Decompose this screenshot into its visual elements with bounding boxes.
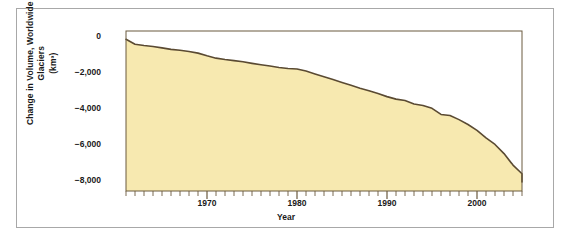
x-axis-label: Year: [0, 212, 572, 222]
x-tick-label: 1980: [288, 198, 307, 208]
x-tick-label: 1970: [198, 198, 217, 208]
x-tick-label: 2000: [468, 198, 487, 208]
glacier-volume-chart-figure: Change in Volume, Worldwide Glaciers (km…: [0, 0, 572, 239]
plot-area-group: [126, 31, 522, 199]
x-axis-minor-ticks: [126, 191, 522, 196]
area-fill: [126, 31, 522, 191]
x-tick-label: 1990: [378, 198, 397, 208]
